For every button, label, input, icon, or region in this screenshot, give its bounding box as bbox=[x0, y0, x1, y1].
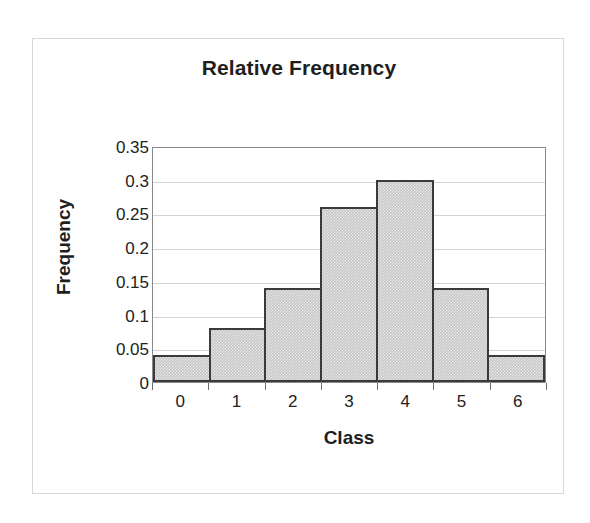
y-axis-tick-labels: 00.050.10.150.20.250.30.35 bbox=[95, 147, 149, 383]
bar bbox=[432, 288, 490, 382]
y-axis-title: Frequency bbox=[53, 187, 75, 307]
y-axis-tick-label: 0.35 bbox=[95, 139, 149, 156]
x-axis-tick-labels: 0123456 bbox=[152, 392, 546, 412]
x-axis-tick-mark bbox=[490, 383, 491, 390]
bar bbox=[320, 207, 378, 382]
x-axis-tick-marks bbox=[152, 383, 546, 390]
y-axis-tick-label: 0 bbox=[95, 375, 149, 392]
x-axis-tick-label: 2 bbox=[265, 392, 321, 412]
x-axis-tick-label: 6 bbox=[490, 392, 546, 412]
x-axis-tick-mark bbox=[152, 383, 153, 390]
bar bbox=[209, 328, 267, 382]
chart-title: Relative Frequency bbox=[33, 56, 565, 80]
x-axis-tick-label: 0 bbox=[152, 392, 208, 412]
x-axis-tick-mark bbox=[265, 383, 266, 390]
bar bbox=[153, 355, 211, 382]
x-axis-tick-mark bbox=[208, 383, 209, 390]
plot-area bbox=[152, 147, 546, 383]
y-axis-tick-label: 0.25 bbox=[95, 206, 149, 223]
y-axis-tick-label: 0.2 bbox=[95, 240, 149, 257]
x-axis-tick-mark bbox=[377, 383, 378, 390]
bar bbox=[487, 355, 545, 382]
bar bbox=[376, 180, 434, 382]
y-axis-tick-label: 0.3 bbox=[95, 172, 149, 189]
x-axis-title: Class bbox=[152, 427, 546, 449]
x-axis-tick-label: 3 bbox=[321, 392, 377, 412]
y-axis-tick-label: 0.1 bbox=[95, 307, 149, 324]
y-axis-tick-label: 0.15 bbox=[95, 273, 149, 290]
x-axis-tick-mark bbox=[321, 383, 322, 390]
bar-series bbox=[153, 148, 545, 382]
x-axis-tick-mark bbox=[546, 383, 547, 390]
bar bbox=[264, 288, 322, 382]
x-axis-tick-label: 4 bbox=[377, 392, 433, 412]
x-axis-tick-label: 1 bbox=[208, 392, 264, 412]
x-axis-tick-mark bbox=[433, 383, 434, 390]
chart-frame: Relative Frequency Frequency 00.050.10.1… bbox=[32, 38, 564, 494]
x-axis-tick-label: 5 bbox=[433, 392, 489, 412]
y-axis-tick-label: 0.05 bbox=[95, 341, 149, 358]
